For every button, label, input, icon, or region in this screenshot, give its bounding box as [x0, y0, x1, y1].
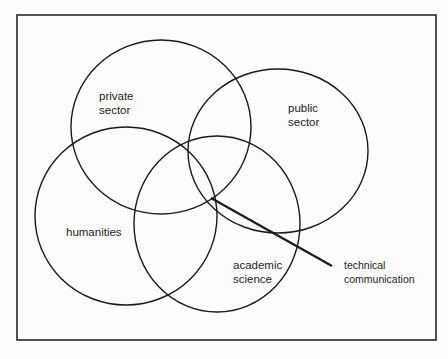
- label-line: sector: [99, 103, 134, 117]
- circle-public-sector: [188, 69, 368, 233]
- label-public-sector: public sector: [288, 101, 319, 129]
- label-line: academic: [233, 258, 282, 272]
- label-line: technical: [344, 258, 415, 272]
- label-line: communication: [344, 272, 415, 286]
- venn-diagram: [0, 0, 448, 359]
- label-academic-science: academic science: [233, 258, 282, 286]
- frame-border: [17, 15, 436, 340]
- label-technical-communication: technical communication: [344, 258, 415, 286]
- label-line: science: [233, 272, 282, 286]
- callout-line: [211, 198, 332, 266]
- label-line: humanities: [66, 225, 122, 239]
- label-humanities: humanities: [66, 225, 122, 239]
- label-line: private: [99, 89, 134, 103]
- label-private-sector: private sector: [99, 89, 134, 117]
- circle-private-sector: [71, 40, 251, 214]
- label-line: sector: [288, 115, 319, 129]
- circle-humanities: [35, 127, 217, 305]
- label-line: public: [288, 101, 319, 115]
